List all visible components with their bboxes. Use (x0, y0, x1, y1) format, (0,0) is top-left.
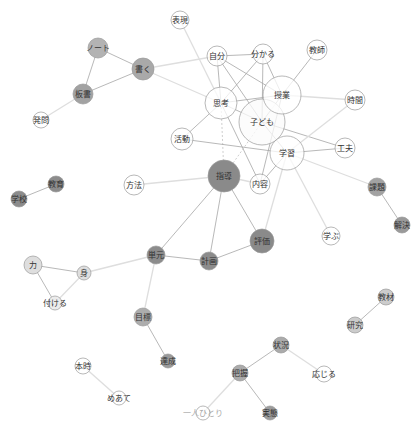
node: 表現 (171, 11, 189, 29)
node: 評価 (250, 229, 274, 253)
node-label: 解決 (394, 220, 410, 230)
node: 書く (132, 58, 154, 80)
node-label: 把握 (232, 368, 248, 378)
co-occurrence-network: 子ども授業学習思考指導評価書く活動ノート板書自分分かる教師時間工夫内容方法表現課… (0, 0, 419, 429)
node: 時間 (345, 90, 365, 110)
node-label: 付ける (43, 298, 67, 308)
node-label: 状況 (273, 340, 289, 350)
node: 思考 (205, 87, 237, 119)
node-label: 授業 (274, 90, 290, 100)
node-label: 指導 (216, 171, 232, 181)
node: 単元 (147, 246, 165, 264)
node-label: 研究 (347, 320, 363, 330)
node-label: 実態 (262, 408, 278, 418)
node: 計画 (200, 252, 218, 270)
node-label: 本時 (75, 361, 91, 371)
node: 課題 (368, 178, 386, 196)
node-label: 教材 (378, 292, 394, 302)
node: 板書 (73, 84, 93, 104)
node: 把握 (232, 365, 248, 381)
node-label: 一人ひとり (183, 409, 223, 418)
node-label: 評価 (254, 236, 270, 246)
node-label: 教師 (309, 45, 325, 55)
node-label: 子ども (250, 118, 274, 127)
node-label: 工夫 (337, 143, 353, 153)
node-label: 自分 (209, 51, 225, 61)
node: 授業 (263, 76, 301, 114)
node-label: 書く (135, 64, 151, 74)
node: 身 (77, 266, 91, 280)
node-label: 表現 (172, 15, 188, 25)
node: 力 (24, 256, 42, 274)
node: 学習 (270, 136, 304, 170)
node: 状況 (273, 337, 289, 353)
node-label: 単元 (148, 250, 164, 260)
node-label: ノート (86, 44, 110, 53)
node-label: 内容 (252, 179, 268, 189)
node-label: 学ぶ (323, 231, 339, 241)
node-label: 時間 (347, 96, 363, 105)
node: 解決 (394, 217, 410, 233)
node: 学校 (11, 191, 27, 207)
node-label: 思考 (213, 99, 229, 108)
node: 活動 (171, 128, 193, 150)
node-label: 課題 (369, 182, 385, 192)
node-label: めあて (107, 394, 131, 403)
node: 自分 (207, 46, 227, 66)
node-label: 板書 (75, 89, 91, 99)
node: 発問 (33, 112, 49, 128)
node-label: 計画 (201, 256, 217, 266)
node: 教育 (48, 176, 64, 192)
node: 教師 (307, 40, 327, 60)
node-label: 身 (80, 268, 88, 278)
node: 目標 (134, 308, 152, 326)
node-label: 方法 (126, 180, 142, 190)
node: 研究 (347, 317, 363, 333)
node: 指導 (208, 160, 240, 192)
background (0, 0, 419, 429)
node-label: 学習 (279, 148, 295, 158)
node: 教材 (378, 289, 394, 305)
network-diagram-canvas: 子ども授業学習思考指導評価書く活動ノート板書自分分かる教師時間工夫内容方法表現課… (0, 0, 419, 429)
node-label: 応じる (312, 369, 336, 379)
node-label: 達成 (160, 356, 176, 366)
node-label: 学校 (11, 194, 27, 204)
node-label: 教育 (48, 179, 64, 189)
node-label: 発問 (33, 116, 49, 125)
node: 工夫 (335, 138, 355, 158)
node-label: 目標 (135, 312, 151, 322)
node: 方法 (124, 175, 144, 195)
node-label: 力 (29, 260, 37, 270)
node: 内容 (250, 174, 270, 194)
node-label: 活動 (174, 134, 190, 144)
node: 学ぶ (322, 227, 340, 245)
node: 本時 (75, 358, 91, 374)
node-label: 分かる (251, 50, 275, 59)
